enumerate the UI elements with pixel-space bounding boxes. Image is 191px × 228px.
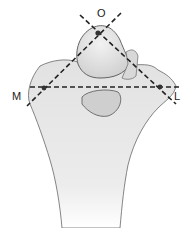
point-L [158, 85, 163, 90]
bone-body [28, 60, 176, 228]
label-l: L [174, 91, 180, 102]
label-o: O [97, 8, 106, 19]
articular-head [77, 26, 130, 78]
label-m: M [12, 91, 21, 102]
point-O [95, 30, 100, 35]
anatomical-diagram: O M L [0, 0, 191, 228]
bone-illustration [0, 0, 191, 228]
point-M [42, 86, 47, 91]
